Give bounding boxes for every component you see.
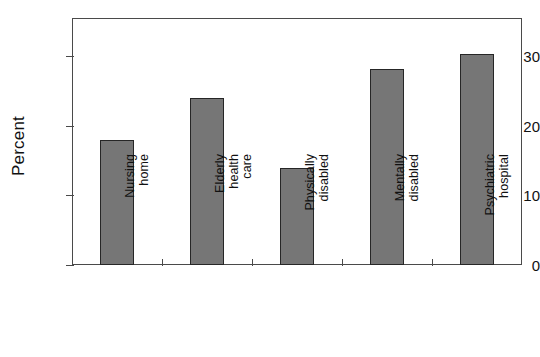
y-axis-title: Percent [9, 86, 29, 206]
y-tick-20 [66, 126, 74, 127]
y-tick-10 [66, 195, 74, 196]
x-axis-label: Mentally disabled [394, 154, 421, 274]
x-axis-label: Physically disabled [304, 154, 331, 274]
bar-chart-figure: Percent 0102030 Nursing homeElderly heal… [0, 0, 540, 357]
y-tick-30 [66, 56, 74, 57]
y-tick-0 [66, 265, 74, 266]
x-tick [432, 259, 433, 266]
x-axis-label: Psychiatric hospital [484, 154, 511, 274]
y-tick-label-20: 20 [494, 117, 540, 134]
x-tick [342, 259, 343, 266]
y-tick-label-30: 30 [494, 48, 540, 65]
x-tick [162, 259, 163, 266]
x-axis-label: Elderly health care [214, 154, 255, 274]
x-axis-label: Nursing home [124, 154, 151, 274]
